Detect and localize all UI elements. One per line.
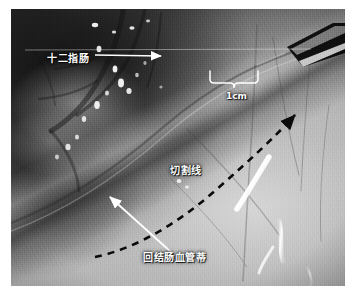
label-cutting-line: 切割线 (170, 162, 202, 177)
label-duodenum: 十二指肠 (47, 50, 89, 65)
scale-brace-icon (210, 71, 258, 87)
cutting-line-dashed-curve (95, 115, 295, 257)
label-ileocolic-vascular-pedicle: 回结肠血管蒂 (143, 249, 206, 264)
annotation-overlay: 十二指肠 1cm 切割线 回结肠血管蒂 (11, 9, 345, 286)
label-scale-1cm: 1cm (226, 91, 247, 101)
pedicle-arrow (110, 197, 171, 252)
duodenum-arrow (95, 55, 161, 56)
screenshot-root: 十二指肠 1cm 切割线 回结肠血管蒂 (0, 0, 356, 298)
